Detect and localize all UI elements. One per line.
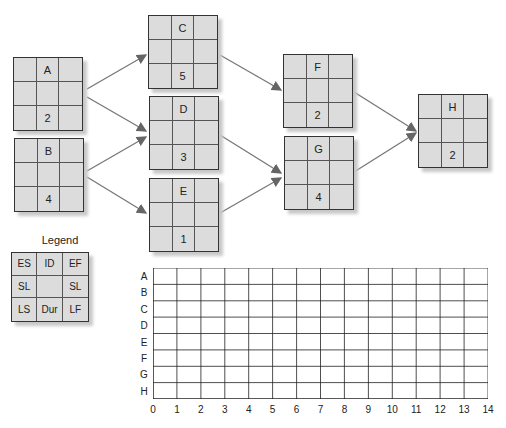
activity-duration: 2 — [307, 103, 330, 127]
activity-node-g: G4 — [284, 136, 354, 210]
activity-duration: 4 — [308, 185, 331, 209]
node-cell — [442, 119, 465, 143]
node-cell — [60, 163, 83, 187]
node-cell — [15, 163, 38, 187]
node-cell — [149, 16, 172, 40]
activity-duration: 2 — [37, 106, 60, 130]
column-label: 6 — [289, 404, 305, 415]
legend-title: Legend — [30, 234, 90, 246]
node-cell — [419, 95, 442, 119]
node-cell — [14, 82, 37, 106]
activity-duration: 3 — [173, 145, 196, 169]
legend-ef: EF — [63, 253, 88, 276]
row-label: F — [138, 353, 150, 364]
node-cell — [284, 55, 307, 79]
node-cell — [464, 95, 487, 119]
node-cell — [149, 64, 172, 88]
activity-node-e: E1 — [149, 178, 219, 252]
node-cell — [150, 203, 173, 227]
column-label: 12 — [432, 404, 448, 415]
activity-duration: 1 — [173, 227, 196, 251]
node-cell — [150, 97, 173, 121]
node-cell — [59, 82, 82, 106]
column-label: 10 — [384, 404, 400, 415]
node-cell — [195, 227, 218, 251]
node-cell — [59, 106, 82, 130]
node-cell — [195, 145, 218, 169]
activity-node-a: A2 — [13, 57, 83, 131]
row-label: D — [138, 320, 150, 331]
column-label: 5 — [265, 404, 281, 415]
activity-node-d: D3 — [149, 96, 219, 170]
row-label: E — [138, 337, 150, 348]
legend-sl-left: SL — [12, 276, 37, 299]
node-cell — [59, 58, 82, 82]
node-cell — [329, 55, 352, 79]
node-cell — [285, 137, 308, 161]
node-cell — [149, 40, 172, 64]
column-label: 0 — [145, 404, 161, 415]
column-label: 9 — [360, 404, 376, 415]
node-cell — [15, 139, 38, 163]
node-cell — [419, 119, 442, 143]
legend-sl-right: SL — [63, 276, 88, 299]
node-cell — [173, 203, 196, 227]
node-cell — [60, 139, 83, 163]
activity-id: H — [442, 95, 465, 119]
node-cell — [150, 121, 173, 145]
node-cell — [194, 16, 217, 40]
legend-id: ID — [37, 253, 62, 276]
column-label: 14 — [480, 404, 496, 415]
node-cell — [15, 187, 38, 211]
legend-lf: LF — [63, 298, 88, 321]
node-cell — [329, 79, 352, 103]
activity-id: E — [173, 179, 196, 203]
node-cell — [330, 137, 353, 161]
node-cell — [14, 58, 37, 82]
node-cell — [284, 103, 307, 127]
node-cell — [330, 185, 353, 209]
node-cell — [172, 40, 195, 64]
node-cell — [464, 143, 487, 167]
activity-id: G — [308, 137, 331, 161]
activity-duration: 4 — [38, 187, 61, 211]
activity-id: B — [38, 139, 61, 163]
node-cell — [308, 161, 331, 185]
node-cell — [464, 119, 487, 143]
activity-node-c: C5 — [148, 15, 218, 89]
row-label: B — [138, 287, 150, 298]
node-cell — [150, 179, 173, 203]
node-cell — [37, 82, 60, 106]
column-label: 3 — [217, 404, 233, 415]
column-label: 4 — [241, 404, 257, 415]
activity-id: D — [173, 97, 196, 121]
activity-duration: 5 — [172, 64, 195, 88]
activity-id: A — [37, 58, 60, 82]
row-label: A — [138, 271, 150, 282]
node-cell — [60, 187, 83, 211]
legend-ls: LS — [12, 298, 37, 321]
gantt-grid — [153, 268, 488, 399]
node-cell — [307, 79, 330, 103]
activity-duration: 2 — [442, 143, 465, 167]
row-label: H — [138, 386, 150, 397]
node-cell — [150, 227, 173, 251]
column-label: 8 — [336, 404, 352, 415]
node-cell — [195, 121, 218, 145]
column-label: 2 — [193, 404, 209, 415]
legend-dur: Dur — [37, 298, 62, 321]
node-cell — [173, 121, 196, 145]
node-cell — [285, 185, 308, 209]
column-label: 11 — [408, 404, 424, 415]
node-cell — [195, 203, 218, 227]
node-cell — [419, 143, 442, 167]
activity-id: C — [172, 16, 195, 40]
activity-id: F — [307, 55, 330, 79]
activity-node-h: H2 — [418, 94, 488, 168]
node-cell — [194, 40, 217, 64]
legend-es: ES — [12, 253, 37, 276]
node-cell — [195, 179, 218, 203]
legend-center — [37, 276, 62, 299]
node-cell — [150, 145, 173, 169]
node-cell — [38, 163, 61, 187]
